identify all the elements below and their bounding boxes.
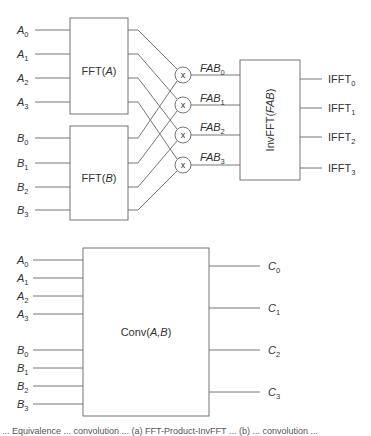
conv-output-label-c1: C1: [268, 302, 280, 319]
subscript: 3: [276, 392, 280, 401]
subscript: 2: [24, 296, 28, 305]
subscript: 0: [24, 138, 28, 147]
name: IFFT: [328, 131, 351, 143]
conv-input-label-a2: A2: [17, 290, 29, 307]
subscript: 3: [351, 168, 355, 177]
subscript: 1: [24, 163, 28, 172]
conv-input-label-b0: B0: [17, 344, 29, 361]
var: C: [268, 260, 276, 272]
subscript: 1: [221, 98, 225, 107]
var: C: [268, 302, 276, 314]
subscript: 1: [276, 308, 280, 317]
fab-label-3: FAB3: [200, 151, 225, 168]
fft-a-label: FFT(A): [70, 65, 128, 77]
input-label-b2: B2: [17, 181, 29, 198]
inv-fft-label: InvFFT(FAB): [263, 70, 277, 170]
var: FAB: [200, 121, 221, 133]
subscript: 2: [221, 127, 225, 136]
input-label-a3: A3: [17, 96, 29, 113]
subscript: 0: [24, 30, 28, 39]
fft-a-out-wire-0: [128, 30, 177, 69]
subscript: 3: [24, 314, 28, 323]
subscript: 3: [24, 102, 28, 111]
conv-label: Conv(A,B): [83, 326, 209, 338]
conv-output-label-c2: C2: [268, 344, 280, 361]
var: C: [268, 386, 276, 398]
subscript: 1: [24, 54, 28, 63]
fft-b-out-wire-0: [128, 81, 177, 138]
conv-input-label-b3: B3: [17, 398, 29, 415]
var: FAB: [200, 92, 221, 104]
subscript: 3: [24, 210, 28, 219]
label-var: A: [105, 65, 112, 77]
subscript: 2: [24, 187, 28, 196]
subscript: 0: [221, 68, 225, 77]
subscript: 1: [351, 108, 355, 117]
label-var: FAB: [264, 92, 276, 113]
var: FAB: [200, 62, 221, 74]
subscript: 3: [24, 404, 28, 413]
conv-input-label-b1: B1: [17, 362, 29, 379]
label-suffix: ): [264, 89, 276, 93]
label-prefix: Conv(: [121, 326, 150, 338]
fab-label-1: FAB1: [200, 92, 225, 109]
fab-label-0: FAB0: [200, 62, 225, 79]
multiply-icon: x: [175, 97, 191, 113]
input-label-b0: B0: [17, 132, 29, 149]
multiply-icon: x: [175, 157, 191, 173]
conv-input-label-a1: A1: [17, 272, 29, 289]
label-prefix: InvFFT(: [264, 113, 276, 152]
ifft-output-label-2: IFFT2: [328, 131, 355, 148]
name: IFFT: [328, 102, 351, 114]
label-prefix: FFT(: [82, 65, 106, 77]
var: C: [268, 344, 276, 356]
label-var: A,B: [150, 326, 168, 338]
subscript: 0: [276, 266, 280, 275]
subscript: 3: [221, 157, 225, 166]
label-var: B: [105, 172, 112, 184]
subscript: 0: [24, 260, 28, 269]
conv-output-label-c0: C0: [268, 260, 280, 277]
conv-output-label-c3: C3: [268, 386, 280, 403]
subscript: 2: [351, 137, 355, 146]
fab-label-2: FAB2: [200, 121, 225, 138]
ifft-output-label-1: IFFT1: [328, 102, 355, 119]
label-prefix: FFT(: [82, 172, 106, 184]
subscript: 2: [24, 78, 28, 87]
label-suffix: ): [168, 326, 172, 338]
fft-b-out-wire-3: [128, 171, 177, 210]
figure-caption: ... Equivalence ... convolution ... (a) …: [2, 426, 318, 436]
label-suffix: ): [113, 65, 117, 77]
inv-fft-block: [240, 60, 322, 180]
conv-input-label-a0: A0: [17, 254, 29, 271]
multiply-icon: x: [175, 127, 191, 143]
fft-a-out-wire-3: [128, 102, 177, 159]
subscript: 2: [24, 386, 28, 395]
multiply-icon: x: [175, 67, 191, 83]
subscript: 1: [24, 368, 28, 377]
subscript: 1: [24, 278, 28, 287]
conv-input-label-a3: A3: [17, 308, 29, 325]
input-label-b1: B1: [17, 157, 29, 174]
label-suffix: ): [113, 172, 117, 184]
name: IFFT: [328, 73, 351, 85]
conv-input-label-b2: B2: [17, 380, 29, 397]
ifft-output-label-0: IFFT0: [328, 73, 355, 90]
input-label-a1: A1: [17, 48, 29, 65]
name: IFFT: [328, 162, 351, 174]
fft-b-label: FFT(B): [70, 172, 128, 184]
ifft-output-label-3: IFFT3: [328, 162, 355, 179]
subscript: 0: [24, 350, 28, 359]
subscript: 0: [351, 79, 355, 88]
input-label-a0: A0: [17, 24, 29, 41]
input-label-b3: B3: [17, 204, 29, 221]
input-label-a2: A2: [17, 72, 29, 89]
subscript: 2: [276, 350, 280, 359]
var: FAB: [200, 151, 221, 163]
